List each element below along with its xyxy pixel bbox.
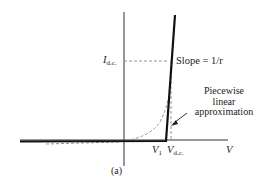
- piecewise-annotation: Piecewise linear approximation: [186, 86, 262, 118]
- actual-curve-dashed: [46, 100, 168, 144]
- idc-label: Id.c.: [103, 55, 117, 67]
- v1-label: V1: [152, 145, 162, 157]
- annotation-line-1: Piecewise: [186, 86, 262, 97]
- slope-label: Slope = 1/r: [176, 56, 223, 67]
- figure-caption: (a): [111, 166, 122, 176]
- annotation-line-3: approximation: [186, 107, 262, 118]
- piecewise-linear-line: [20, 15, 175, 142]
- x-axis-label: V: [226, 145, 232, 156]
- vdc-label: Vd.c.: [167, 145, 184, 157]
